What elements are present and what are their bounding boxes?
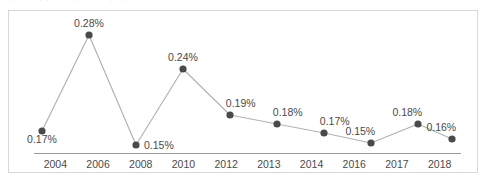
value-label-2018: 0.16%: [426, 121, 456, 133]
value-label-2006: 0.28%: [74, 17, 104, 29]
value-label-2012: 0.19%: [226, 97, 256, 109]
chart-frame: 2004200620082010201220132014201620172018…: [8, 10, 478, 173]
clipped-top-text: · — ·· — · –– · · —— – –: [8, 0, 188, 6]
value-label-2016: 0.15%: [345, 125, 375, 137]
clipped-top-text-strip: · — ·· — · –– · · —— – –: [0, 0, 489, 9]
value-label-2013: 0.18%: [273, 106, 303, 118]
plot-area: 2004200620082010201220132014201620172018…: [9, 11, 478, 173]
value-label-2008: 0.15%: [144, 139, 174, 151]
value-label-2017: 0.18%: [392, 106, 422, 118]
chart-screenshot: · — ·· — · –– · · —— – – 200420062008201…: [0, 0, 489, 183]
value-label-2004: 0.17%: [27, 133, 57, 145]
value-label-2010: 0.24%: [168, 51, 198, 63]
data-point-labels: 0.17%0.28%0.15%0.24%0.19%0.18%0.17%0.15%…: [9, 11, 478, 173]
